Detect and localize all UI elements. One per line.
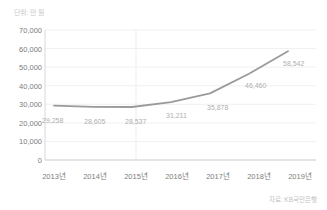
x-tick-label-2019: 2019년 (278, 170, 322, 181)
y-tick-label: 40,000 (0, 82, 42, 91)
x-tick-label-2013: 2013년 (32, 170, 76, 181)
source-note: 자료: KB국민은행 (269, 194, 317, 204)
data-label-2016: 31,211 (166, 112, 187, 119)
y-tick-label: 60,000 (0, 45, 42, 54)
y-tick-label: 70,000 (0, 26, 42, 35)
x-tick-label-2016: 2016년 (155, 170, 199, 181)
x-tick-label-2018: 2018년 (237, 170, 281, 181)
data-label-2018: 46,460 (245, 82, 266, 89)
x-tick-label-2014: 2014년 (73, 170, 117, 181)
y-tick-label: 20,000 (0, 119, 42, 128)
data-label-2014: 28,605 (84, 118, 105, 125)
data-label-2019: 58,542 (283, 60, 304, 67)
y-tick-label: 0 (0, 156, 42, 165)
line-chart: 단위: 만 원 70,000 60,000 50,000 40,000 30,0… (0, 0, 327, 210)
data-label-2017: 35,878 (207, 104, 228, 111)
data-label-2013: 29,258 (42, 117, 63, 124)
y-tick-label: 50,000 (0, 63, 42, 72)
y-tick-label: 10,000 (0, 137, 42, 146)
y-tick-label: 30,000 (0, 100, 42, 109)
x-tick-label-2015: 2015년 (114, 170, 158, 181)
gridlines (45, 30, 316, 160)
data-label-2015: 28,537 (125, 118, 146, 125)
x-tick-label-2017: 2017년 (196, 170, 240, 181)
series-line-path (54, 51, 288, 107)
